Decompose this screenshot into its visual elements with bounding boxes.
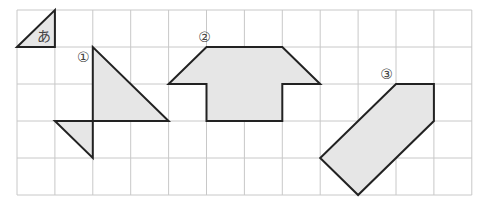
shapes: あ①②③ — [17, 10, 434, 195]
shape-3 — [320, 84, 434, 195]
shape-label-3: ③ — [380, 66, 393, 82]
shape-1-part-2 — [55, 121, 93, 158]
shape-label-2: ② — [198, 29, 211, 45]
shape-label-a: あ — [37, 28, 51, 44]
grid-diagram: あ①②③ — [0, 0, 479, 202]
shape-2 — [169, 47, 321, 121]
shape-label-1: ① — [77, 49, 90, 65]
